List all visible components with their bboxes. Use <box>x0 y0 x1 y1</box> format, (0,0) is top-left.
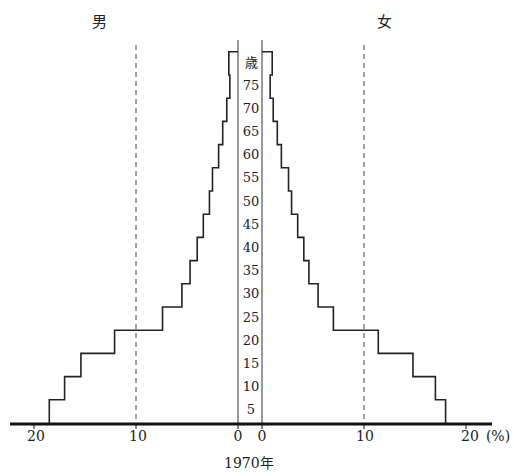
age-tick: 40 <box>240 240 262 255</box>
x-tick-right-20: 20 <box>461 428 479 444</box>
age-tick: 25 <box>240 309 262 324</box>
age-tick: 60 <box>240 147 262 162</box>
x-tick-left-10: 10 <box>129 428 147 444</box>
age-tick: 50 <box>240 193 262 208</box>
age-tick: 10 <box>240 379 262 394</box>
x-tick-right-10: 10 <box>356 428 374 444</box>
age-tick: 30 <box>240 286 262 301</box>
age-tick: 5 <box>240 402 262 417</box>
age-tick: 20 <box>240 332 262 347</box>
x-tick-left-0: 0 <box>234 428 243 444</box>
x-unit: (%) <box>486 428 510 444</box>
age-tick: 65 <box>240 124 262 139</box>
chart-title: 1970年 <box>224 452 274 472</box>
x-tick-left-20: 20 <box>27 428 45 444</box>
age-tick: 55 <box>240 170 262 185</box>
age-tick: 70 <box>240 100 262 115</box>
age-tick: 15 <box>240 356 262 371</box>
age-unit: 歳 <box>240 52 262 71</box>
age-tick: 35 <box>240 263 262 278</box>
age-tick: 75 <box>240 77 262 92</box>
x-tick-right-0: 0 <box>258 428 267 444</box>
age-tick: 45 <box>240 216 262 231</box>
female-series <box>262 52 446 423</box>
male-series <box>49 52 238 423</box>
